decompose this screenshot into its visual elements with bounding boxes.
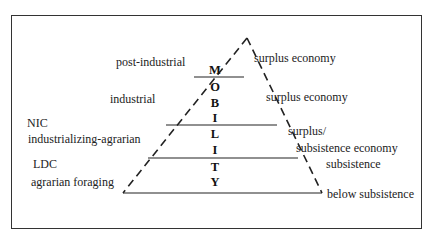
right-label-surplus-economy-2: surplus economy (266, 90, 348, 104)
left-label-nic: NIC (27, 116, 48, 130)
left-label-industrial: industrial (110, 92, 155, 106)
mobility-letter: T (205, 160, 225, 174)
left-label-post-industrial: post-industrial (116, 55, 185, 69)
right-label-below-subsistence: below subsistence (327, 187, 414, 201)
left-label-ldc: LDC (33, 157, 57, 171)
right-label-subsistence: subsistence (326, 157, 381, 171)
mobility-letter: B (205, 96, 225, 110)
mobility-letter: L (205, 127, 225, 141)
left-label-ldc-desc: agrarian foraging (31, 175, 114, 189)
left-label-nic-desc: industrializing-agrarian (28, 132, 141, 146)
mobility-letter: Y (205, 175, 225, 189)
right-label-surplus-economy-1: surplus economy (254, 51, 336, 65)
mobility-letter: I (205, 143, 225, 157)
right-label-surplus-subsistence-2: subsistence economy (296, 141, 398, 155)
right-label-surplus-subsistence: surplus/ (288, 124, 326, 138)
mobility-letter: O (205, 80, 225, 94)
mobility-letter: I (205, 111, 225, 125)
mobility-letter: M (205, 63, 225, 77)
